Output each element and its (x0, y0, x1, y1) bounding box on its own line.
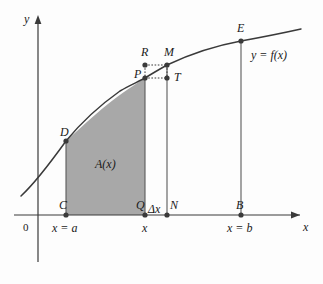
y-axis-arrowhead (35, 15, 42, 24)
point-label-e: E (237, 22, 244, 34)
y-axis-label: y (24, 13, 29, 25)
point-marker-q (142, 212, 147, 217)
point-marker-b (238, 212, 243, 217)
area-function-label: A(x) (95, 158, 116, 170)
tick-label-a: x = a (52, 222, 77, 234)
point-label-p: P (134, 68, 141, 80)
point-label-d: D (60, 126, 69, 138)
figure-canvas (0, 0, 323, 284)
point-marker-m (164, 62, 169, 67)
point-label-m: M (164, 46, 174, 58)
point-marker-e (238, 38, 243, 43)
delta-x-label: Δx (148, 203, 160, 215)
point-marker-d (63, 138, 68, 143)
tick-label-x: x (142, 222, 147, 234)
point-label-n: N (170, 199, 178, 211)
origin-label: 0 (23, 222, 29, 233)
shaded-area-region (66, 78, 145, 215)
point-marker-p (142, 75, 147, 80)
point-label-b: B (236, 199, 243, 211)
point-marker-n (164, 212, 169, 217)
calculus-area-figure: y x 0 y = f(x) A(x) Δx x = a x x = b D P… (0, 0, 323, 284)
point-marker-c (63, 212, 68, 217)
point-label-c: C (59, 199, 67, 211)
point-marker-r (142, 62, 147, 67)
point-label-r: R (141, 46, 148, 58)
x-axis-label: x (303, 221, 308, 233)
tick-label-b: x = b (227, 222, 252, 234)
x-axis-arrowhead (291, 212, 300, 219)
curve-equation-label: y = f(x) (251, 49, 287, 61)
point-marker-t (164, 75, 169, 80)
point-label-t: T (174, 71, 181, 83)
point-label-q: Q (136, 199, 145, 211)
